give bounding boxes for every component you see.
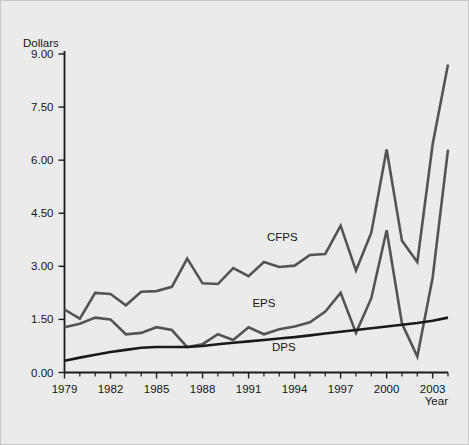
series-inline-labels: CFPSEPSDPS bbox=[252, 231, 298, 353]
y-tick-label: 0.00 bbox=[31, 367, 53, 379]
x-tick-label: 1994 bbox=[282, 383, 308, 395]
series-label-cfps: CFPS bbox=[267, 231, 298, 243]
series-label-dps: DPS bbox=[272, 341, 296, 353]
x-axis-ticks: 197919821985198819911994199720002003 bbox=[52, 383, 446, 395]
y-axis-ticks: 0.001.503.004.506.007.509.00 bbox=[31, 48, 64, 379]
series-line-cfps bbox=[65, 65, 449, 319]
series-label-eps: EPS bbox=[252, 297, 275, 309]
y-tick-label: 1.50 bbox=[31, 313, 53, 325]
y-tick-label: 3.00 bbox=[31, 260, 53, 272]
y-axis-title: Dollars bbox=[23, 37, 59, 49]
x-axis-title: Year bbox=[425, 395, 448, 407]
y-tick-label: 4.50 bbox=[31, 207, 53, 219]
x-tick-label: 1985 bbox=[144, 383, 170, 395]
data-series-group bbox=[65, 65, 449, 361]
line-chart: 0.001.503.004.506.007.509.00 19791982198… bbox=[1, 1, 469, 445]
x-tick-label: 1982 bbox=[98, 383, 124, 395]
y-tick-label: 6.00 bbox=[31, 154, 53, 166]
x-tick-label: 2003 bbox=[420, 383, 446, 395]
x-tick-label: 1997 bbox=[328, 383, 354, 395]
x-tick-label: 1991 bbox=[236, 383, 262, 395]
x-tick-label: 1979 bbox=[52, 383, 78, 395]
chart-page: 0.001.503.004.506.007.509.00 19791982198… bbox=[0, 0, 469, 445]
x-tick-label: 2000 bbox=[374, 383, 400, 395]
y-tick-label: 7.50 bbox=[31, 101, 53, 113]
y-tick-label: 9.00 bbox=[31, 48, 53, 60]
series-line-dps bbox=[65, 318, 449, 361]
x-tick-label: 1988 bbox=[190, 383, 216, 395]
